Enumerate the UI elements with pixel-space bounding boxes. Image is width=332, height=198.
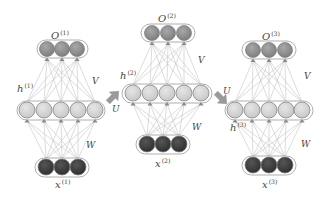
- weight-V-label-t3: V: [304, 71, 312, 81]
- input-node-t1-2: [54, 159, 70, 175]
- output-node-t2-2: [161, 26, 176, 41]
- hidden-label-t2: h(2): [120, 69, 136, 81]
- output-node-t3-1: [246, 43, 261, 58]
- output-label-t3: O(3): [262, 30, 280, 42]
- input-label-t1: x(1): [55, 178, 70, 190]
- hidden-node-t3-4: [278, 102, 294, 118]
- output-label-t2: O(2): [158, 12, 176, 24]
- input-node-t3-2: [261, 157, 277, 173]
- weight-W-label-t3: W: [301, 139, 311, 149]
- output-node-t3-3: [278, 43, 293, 58]
- hidden-node-t1-1: [19, 102, 35, 118]
- hidden-node-t2-1: [125, 85, 141, 101]
- weight-W-label-t2: W: [192, 122, 202, 132]
- weight-W-label-t1: W: [86, 140, 96, 150]
- output-node-t1-2: [55, 42, 70, 57]
- hidden-node-t3-2: [244, 102, 260, 118]
- input-node-t1-1: [38, 159, 54, 175]
- rnn-unrolled-diagram: O(1)h(1)x(1)VWO(2)h(2)x(2)VWO(3)h(3)x(3)…: [0, 0, 332, 198]
- hidden-node-t3-1: [227, 102, 243, 118]
- hidden-node-t1-4: [70, 102, 86, 118]
- hidden-node-t3-3: [261, 102, 277, 118]
- input-node-t2-3: [171, 136, 187, 152]
- hidden-node-t2-2: [142, 85, 158, 101]
- hidden-label-t1: h(1): [17, 82, 33, 94]
- output-node-t3-2: [262, 43, 277, 58]
- hidden-node-t1-3: [53, 102, 69, 118]
- output-node-t2-3: [177, 26, 192, 41]
- hidden-node-t3-5: [294, 102, 310, 118]
- recurrent-U-label-1: U: [112, 104, 120, 114]
- hidden-label-t3: h(3): [230, 121, 246, 133]
- recurrent-U-label-2: U: [223, 86, 231, 96]
- input-node-t3-3: [277, 157, 293, 173]
- hidden-node-t2-4: [176, 85, 192, 101]
- hidden-node-t1-2: [36, 102, 52, 118]
- output-label-t1: O(1): [51, 29, 69, 41]
- output-node-t1-1: [40, 42, 55, 57]
- input-node-t2-1: [139, 136, 155, 152]
- input-label-t2: x(2): [155, 157, 170, 169]
- weight-V-label-t1: V: [92, 76, 100, 86]
- input-node-t1-3: [70, 159, 86, 175]
- input-node-t3-1: [245, 157, 261, 173]
- weight-V-label-t2: V: [198, 55, 206, 65]
- output-node-t2-1: [145, 26, 160, 41]
- input-label-t3: x(3): [262, 178, 277, 190]
- hidden-node-t2-3: [159, 85, 175, 101]
- output-node-t1-3: [70, 42, 85, 57]
- hidden-node-t2-5: [193, 85, 209, 101]
- hidden-node-t1-5: [87, 102, 103, 118]
- input-node-t2-2: [155, 136, 171, 152]
